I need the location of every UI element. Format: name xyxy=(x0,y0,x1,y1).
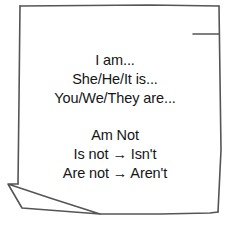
line-i-am: I am... xyxy=(30,51,200,70)
paper-curled-corner xyxy=(8,184,100,214)
line-you-we-they-are: You/We/They are... xyxy=(30,89,200,108)
note-paper-outline xyxy=(0,0,229,225)
line-are-not-arent: Are not → Aren't xyxy=(30,164,200,183)
paper-left-edge xyxy=(18,6,20,184)
paper-bottom-edge xyxy=(100,212,218,214)
paper-top-edge xyxy=(20,5,219,6)
line-she-he-it-is: She/He/It is... xyxy=(30,70,200,89)
affirmative-block: I am... She/He/It is... You/We/They are.… xyxy=(30,51,200,108)
negative-block: Am Not Is not → Isn't Are not → Aren't xyxy=(30,126,200,183)
paper-right-edge xyxy=(218,6,221,212)
line-am-not: Am Not xyxy=(30,126,200,145)
line-is-not-isnt: Is not → Isn't xyxy=(30,145,200,164)
